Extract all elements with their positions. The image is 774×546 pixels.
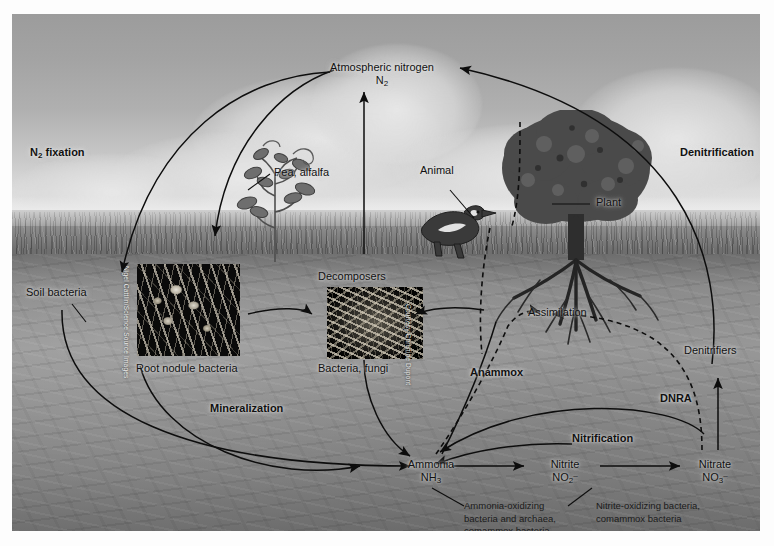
node-nitrate-name: Nitrate (699, 458, 731, 470)
arrow-denitrification-to-atmosphere (460, 68, 714, 364)
nitrogen-cycle-figure: Nigel Cattlin/Science Source Images Cour… (0, 0, 774, 546)
arrow-tree-to-decomposers (416, 308, 484, 314)
label-atmospheric-nitrogen-formula: N2 (376, 74, 388, 86)
node-ammonia-formula: NH3 (421, 471, 441, 483)
node-nitrate-formula: NO3– (702, 471, 727, 483)
arrow-n2-to-root-nodule (215, 70, 334, 236)
node-ammonia: Ammonia NH3 (400, 458, 462, 485)
dashed-line-plant-to-animal (512, 122, 520, 226)
node-nitrate: Nitrate NO3– (686, 458, 744, 485)
caption-nitrite-oxidizers-line-1: Nitrite-oxidizing bacteria, (596, 500, 700, 513)
node-nitrite-formula: NO2– (552, 471, 577, 483)
label-dnra: DNRA (660, 392, 692, 405)
label-animal: Animal (420, 164, 454, 177)
label-assimilation: Assimilation (528, 306, 587, 319)
label-anammox: Anammox (470, 366, 523, 379)
label-denitrifiers: Denitrifiers (684, 344, 737, 357)
node-nitrite-name: Nitrite (551, 458, 580, 470)
label-pea-alfalfa: Pea, alfalfa (274, 166, 329, 179)
leader-ammonia-oxidizers (432, 488, 464, 506)
label-root-nodule-bacteria: Root nodule bacteria (136, 362, 238, 375)
caption-ammonia-oxidizers-line-2: bacteria and archaea, (464, 513, 556, 526)
arrow-soil-bacteria-to-ammonia (62, 310, 410, 466)
label-decomposers: Decomposers (318, 270, 386, 283)
label-soil-bacteria: Soil bacteria (26, 286, 87, 299)
scene-illustration: Nigel Cattlin/Science Source Images Cour… (12, 14, 760, 531)
dashed-arrow-nitrate-assimilation (552, 314, 702, 450)
caption-nitrite-oxidizers-line-2: comammox bacteria (596, 513, 700, 526)
label-atmospheric-nitrogen: Atmospheric nitrogen N2 (330, 61, 434, 88)
leader-pea-alfalfa (248, 174, 270, 190)
label-bacteria-fungi: Bacteria, fungi (318, 362, 388, 375)
arrow-plant-to-decomposers (248, 309, 312, 314)
label-plant: Plant (596, 196, 621, 209)
node-nitrite: Nitrite NO2– (536, 458, 594, 485)
leader-nitrite-oxidizers (568, 488, 592, 506)
leader-animal (450, 190, 474, 218)
label-n2-fixation: N2 fixation (30, 146, 85, 160)
label-nitrification: Nitrification (572, 432, 633, 445)
arrow-overlay (12, 14, 760, 531)
label-mineralization: Mineralization (210, 402, 283, 415)
caption-ammonia-oxidizers-line-1: Ammonia-oxidizing (464, 500, 556, 513)
node-ammonia-name: Ammonia (408, 458, 454, 470)
label-atmospheric-nitrogen-text: Atmospheric nitrogen (330, 61, 434, 73)
arrow-dnra-nitrate-to-ammonia (440, 408, 704, 452)
dashed-arrow-ammonia-assimilation (436, 311, 540, 454)
caption-nitrite-oxidizers: Nitrite-oxidizing bacteria, comammox bac… (596, 500, 700, 525)
dashed-line-animal-to-soil (480, 228, 490, 354)
arrow-anammox-arc (442, 322, 496, 454)
leader-soil-bacteria (72, 304, 86, 322)
label-denitrification: Denitrification (680, 146, 754, 159)
caption-ammonia-oxidizers: Ammonia-oxidizing bacteria and archaea, … (464, 500, 556, 531)
caption-ammonia-oxidizers-line-3: comammox bacteria (464, 525, 556, 531)
